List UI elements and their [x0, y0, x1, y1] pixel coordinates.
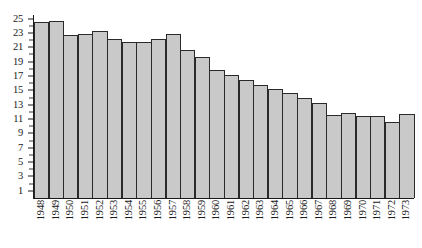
bar: [195, 57, 210, 198]
x-axis-tick-label: 1970: [358, 200, 369, 220]
bar: [399, 114, 414, 198]
bar: [92, 31, 107, 198]
y-axis-tick-label: 25: [13, 13, 23, 24]
bar: [49, 21, 64, 198]
x-axis-tick-label: 1969: [343, 200, 354, 220]
bar: [136, 42, 151, 198]
x-axis-tick-label: 1966: [299, 200, 310, 220]
bar: [341, 113, 356, 198]
y-axis-tick-label: 13: [13, 99, 23, 110]
x-axis-tick-label: 1954: [124, 200, 135, 220]
bar: [312, 103, 327, 198]
bar: [166, 34, 181, 198]
x-axis-tick-label: 1952: [95, 200, 106, 220]
bar: [282, 93, 297, 198]
bar: [253, 85, 268, 198]
bar: [151, 39, 166, 198]
bar: [370, 116, 385, 198]
bar: [122, 42, 137, 198]
y-axis-tick-label: 23: [13, 28, 23, 39]
x-axis-tick-label: 1971: [372, 200, 383, 220]
x-axis-tick-label: 1958: [182, 200, 193, 220]
x-axis-tick-label: 1961: [226, 200, 237, 220]
y-axis-tick-label: 11: [13, 114, 23, 125]
x-axis-tick-label: 1959: [197, 200, 208, 220]
bar: [268, 89, 283, 198]
x-axis-tick-label: 1964: [270, 200, 281, 220]
y-axis-tick-label: 17: [13, 71, 23, 82]
x-axis-tick-label: 1965: [285, 200, 296, 220]
bar: [78, 34, 93, 198]
x-axis-tick-label: 1967: [314, 200, 325, 220]
y-axis-tick-label: 7: [18, 143, 23, 154]
bar: [34, 22, 49, 198]
x-axis-tick-label: 1951: [80, 200, 91, 220]
bar: [63, 35, 78, 198]
x-axis-tick-label: 1968: [328, 200, 339, 220]
bar: [180, 50, 195, 198]
y-axis-tick-label: 3: [18, 171, 23, 182]
bar: [209, 70, 224, 198]
bar: [385, 122, 400, 198]
y-axis-tick-label: 21: [13, 42, 23, 53]
x-axis-tick-label: 1956: [153, 200, 164, 220]
x-axis-tick-label: 1949: [51, 200, 62, 220]
x-axis-tick-label: 1953: [109, 200, 120, 220]
x-axis-tick-label: 1957: [168, 200, 179, 220]
y-axis-tick-label: 5: [18, 157, 23, 168]
x-axis-tick-label: 1973: [401, 200, 412, 220]
y-axis-tick-label: 9: [18, 128, 23, 139]
x-axis-tick-label: 1948: [36, 200, 47, 220]
y-axis-tick-label: 19: [13, 56, 23, 67]
bar: [326, 115, 341, 198]
bar-chart: 135791113151719212325 194819491950195119…: [0, 0, 422, 248]
bar: [356, 116, 371, 198]
y-axis: 135791113151719212325: [0, 0, 34, 248]
x-axis-tick-label: 1972: [387, 200, 398, 220]
x-axis-tick-label: 1950: [65, 200, 76, 220]
x-axis-tick-label: 1960: [211, 200, 222, 220]
bar: [239, 80, 254, 198]
plot-area: [34, 15, 414, 198]
y-axis-tick-label: 15: [13, 85, 23, 96]
x-axis-tick-label: 1962: [241, 200, 252, 220]
bar: [107, 39, 122, 198]
y-axis-tick-label: 1: [18, 186, 23, 197]
bar: [224, 75, 239, 198]
x-axis: 1948194919501951195219531954195519561957…: [34, 200, 414, 248]
bar: [297, 98, 312, 198]
x-axis-tick-label: 1963: [255, 200, 266, 220]
x-axis-tick-label: 1955: [138, 200, 149, 220]
